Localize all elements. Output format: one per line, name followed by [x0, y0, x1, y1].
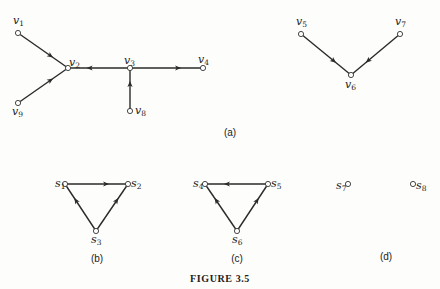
- arrowhead-icon: [215, 198, 221, 204]
- vertex-label-s3: s3: [91, 233, 102, 247]
- vertex-label-s5: s5: [271, 177, 282, 191]
- vertex-label-v7: v7: [395, 15, 406, 29]
- vertex-label-s8: s8: [416, 179, 427, 193]
- edge-s3-s1: [65, 184, 96, 231]
- edge-v1-v2: [18, 33, 68, 68]
- edge-s6-s5: [237, 184, 268, 231]
- vertex-v5: [298, 31, 303, 36]
- edge-v5-v6: [301, 34, 351, 75]
- vertex-label-v5: v5: [296, 15, 307, 29]
- vertex-label-v2: v2: [69, 56, 80, 70]
- vertex-label-s6: s6: [232, 233, 243, 247]
- vertex-s5: [265, 181, 270, 186]
- vertex-label-v3: v3: [124, 54, 135, 68]
- vertex-v1: [15, 30, 20, 35]
- arrowhead-icon: [74, 198, 79, 204]
- vertex-s2: [125, 181, 130, 186]
- vertex-label-v9: v9: [12, 105, 23, 119]
- vertex-label-s2: s2: [131, 177, 142, 191]
- vertex-label-v4: v4: [198, 53, 209, 67]
- arrowhead-icon: [113, 198, 119, 204]
- vertex-v7: [397, 31, 402, 36]
- panel-label-d: (d): [380, 251, 392, 262]
- arrowhead-icon: [47, 79, 53, 85]
- directed-graph-diagram: v1v2v3v4v9v8v5v6v7s1s2s3s4s5s6s7s8 (a) (…: [0, 0, 440, 289]
- edge-v7-v6: [351, 34, 400, 75]
- vertex-label-v8: v8: [135, 104, 146, 118]
- vertex-label-v1: v1: [13, 14, 24, 28]
- vertex-label-s4: s4: [193, 177, 204, 191]
- edge-s3-s2: [96, 184, 128, 231]
- vertex-v8: [127, 108, 132, 113]
- vertex-label-s1: s1: [55, 177, 65, 191]
- arrowhead-icon: [47, 52, 53, 58]
- vertex-v6: [348, 72, 353, 77]
- vertex-label-v6: v6: [345, 78, 356, 92]
- labels-layer: v1v2v3v4v9v8v5v6v7s1s2s3s4s5s6s7s8: [12, 14, 427, 247]
- panel-label-a: (a): [224, 127, 236, 138]
- figure-caption: FIGURE 3.5: [190, 273, 250, 284]
- edge-s6-s4: [205, 184, 237, 231]
- edge-v9-v2: [18, 68, 68, 103]
- arrowhead-icon: [253, 198, 258, 204]
- vertex-s8: [410, 181, 415, 186]
- panel-label-c: (c): [231, 253, 243, 264]
- figure-3-5: v1v2v3v4v9v8v5v6v7s1s2s3s4s5s6s7s8 (a) (…: [0, 0, 440, 289]
- vertex-label-s7: s7: [336, 179, 347, 193]
- panel-label-b: (b): [91, 253, 103, 264]
